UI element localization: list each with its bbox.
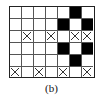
black-cell [69,54,81,66]
black-cell [69,6,81,18]
grid-container [9,6,95,78]
black-cell [57,42,69,54]
black-cell [57,18,69,30]
black-cell [81,18,93,30]
grid-diagram [9,6,95,78]
figure-caption: (b) [0,82,103,95]
figure-panel-b: (b) [0,0,103,104]
black-cell [81,42,93,54]
